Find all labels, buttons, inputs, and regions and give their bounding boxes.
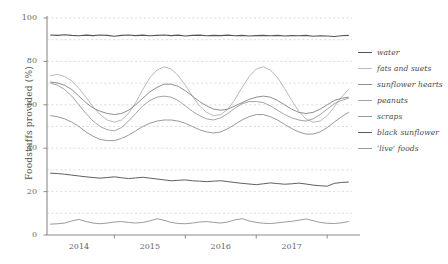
series-line--live-foods <box>51 219 349 224</box>
legend-item-water[interactable]: water <box>358 44 448 60</box>
legend-swatch-icon <box>358 116 372 117</box>
legend-item-label: black sunflower <box>377 128 439 137</box>
y-tick-label: 100 <box>15 13 37 22</box>
y-tick-label: 60 <box>15 100 37 109</box>
legend-item-fats-and-suets[interactable]: fats and suets <box>358 60 448 76</box>
legend-swatch-icon <box>358 68 372 69</box>
legend-swatch-icon <box>358 148 372 149</box>
legend-swatch-icon <box>358 52 372 53</box>
series-line-water <box>51 35 349 37</box>
legend-item-sunflower-hearts[interactable]: sunflower hearts <box>358 76 448 92</box>
legend-item-scraps[interactable]: scraps <box>358 108 448 124</box>
x-tick-label: 2014 <box>59 242 99 251</box>
legend-item-label: scraps <box>377 112 402 121</box>
x-tick-label: 2017 <box>272 242 312 251</box>
chart-figure: Foodstuffs provided (%) 020406080100 201… <box>0 0 448 264</box>
legend-item-label: water <box>377 48 399 57</box>
chart-legend: waterfats and suetssunflower heartspeanu… <box>358 44 448 156</box>
y-tick-label: 40 <box>15 143 37 152</box>
legend-item--live-foods[interactable]: 'live' foods <box>358 140 448 156</box>
series-line-fats-and-suets <box>51 67 349 122</box>
y-tick-label: 0 <box>15 230 37 239</box>
legend-item-label: peanuts <box>377 96 408 105</box>
legend-item-label: sunflower hearts <box>377 80 443 89</box>
legend-item-label: 'live' foods <box>377 144 419 153</box>
x-tick-label: 2015 <box>130 242 170 251</box>
x-tick-label: 2016 <box>201 242 241 251</box>
series-line-peanuts <box>51 83 349 131</box>
legend-item-peanuts[interactable]: peanuts <box>358 92 448 108</box>
y-tick-label: 80 <box>15 56 37 65</box>
legend-swatch-icon <box>358 132 372 133</box>
series-line-black-sunflower <box>51 173 349 186</box>
y-tick-label: 20 <box>15 187 37 196</box>
legend-item-black-sunflower[interactable]: black sunflower <box>358 124 448 140</box>
legend-swatch-icon <box>358 84 372 85</box>
legend-swatch-icon <box>358 100 372 101</box>
legend-item-label: fats and suets <box>377 64 431 73</box>
